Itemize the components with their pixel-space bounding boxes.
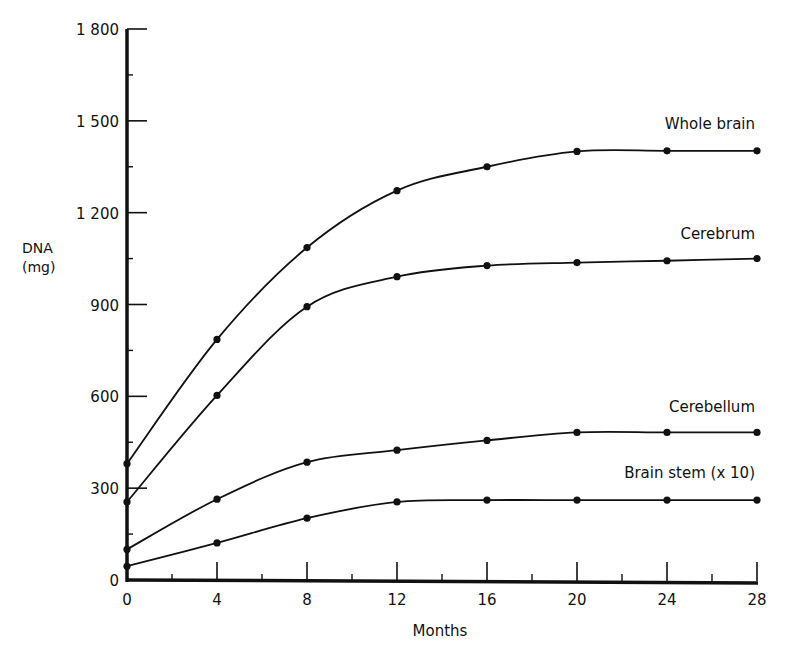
y-tick-label: 900 <box>90 297 119 315</box>
series-label: Cerebellum <box>669 398 755 416</box>
data-point <box>303 303 310 310</box>
axes: 03006009001 2001 5001 8000481216202428 <box>76 21 767 609</box>
data-point <box>573 259 580 266</box>
x-axis-label: Months <box>413 622 468 640</box>
data-point <box>123 498 130 505</box>
series-whole-brain <box>123 147 760 467</box>
series-line <box>127 500 757 566</box>
dna-growth-chart: 03006009001 2001 5001 8000481216202428 W… <box>0 0 786 654</box>
series-label: Cerebrum <box>680 225 755 243</box>
data-point <box>303 459 310 466</box>
data-point <box>753 429 760 436</box>
series-curves <box>123 147 760 570</box>
x-tick-label: 0 <box>122 591 132 609</box>
series-label: Brain stem (x 10) <box>624 464 755 482</box>
data-point <box>303 515 310 522</box>
data-point <box>123 460 130 467</box>
data-point <box>213 392 220 399</box>
y-tick-label: 600 <box>90 388 119 406</box>
series-label: Whole brain <box>665 115 755 133</box>
data-point <box>213 539 220 546</box>
y-tick-label: 1 800 <box>76 21 119 39</box>
data-point <box>753 255 760 262</box>
data-point <box>393 447 400 454</box>
data-point <box>393 273 400 280</box>
x-tick-label: 8 <box>302 591 312 609</box>
data-point <box>573 148 580 155</box>
data-point <box>753 497 760 504</box>
data-point <box>393 187 400 194</box>
data-point <box>123 546 130 553</box>
data-point <box>663 497 670 504</box>
data-point <box>753 147 760 154</box>
data-point <box>123 563 130 570</box>
data-point <box>303 244 310 251</box>
data-point <box>213 336 220 343</box>
data-point <box>483 497 490 504</box>
series-labels: Whole brainCerebrumCerebellumBrain stem … <box>624 115 755 482</box>
series-cerebellum <box>123 429 760 553</box>
data-point <box>573 497 580 504</box>
data-point <box>663 429 670 436</box>
y-tick-label: 0 <box>109 572 119 590</box>
y-tick-label: 1 200 <box>76 205 119 223</box>
series-brain-stem-x-10 <box>123 497 760 570</box>
x-tick-label: 24 <box>657 591 676 609</box>
y-axis-label-line2: (mg) <box>22 259 55 275</box>
y-tick-label: 1 500 <box>76 113 119 131</box>
series-line <box>127 432 757 550</box>
x-tick-label: 12 <box>387 591 406 609</box>
data-point <box>663 147 670 154</box>
data-point <box>483 437 490 444</box>
data-point <box>483 163 490 170</box>
x-tick-label: 4 <box>212 591 222 609</box>
data-point <box>483 262 490 269</box>
data-point <box>663 257 670 264</box>
data-point <box>573 429 580 436</box>
x-tick-label: 28 <box>747 591 766 609</box>
data-point <box>393 498 400 505</box>
y-tick-label: 300 <box>90 480 119 498</box>
data-point <box>213 496 220 503</box>
x-tick-label: 16 <box>477 591 496 609</box>
y-axis-label-line1: DNA <box>22 240 53 256</box>
x-tick-label: 20 <box>567 591 586 609</box>
series-line <box>127 150 757 464</box>
